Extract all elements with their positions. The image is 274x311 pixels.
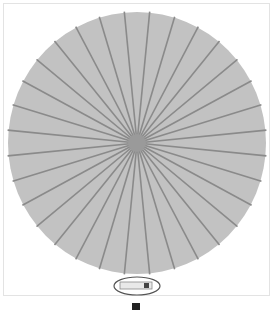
umbrella-illustration — [0, 0, 274, 300]
handle-callout — [114, 277, 160, 295]
canopy-hub — [128, 134, 146, 152]
caption-marker-icon — [132, 303, 140, 310]
handle-button — [144, 283, 149, 288]
figure-caption — [0, 303, 274, 311]
